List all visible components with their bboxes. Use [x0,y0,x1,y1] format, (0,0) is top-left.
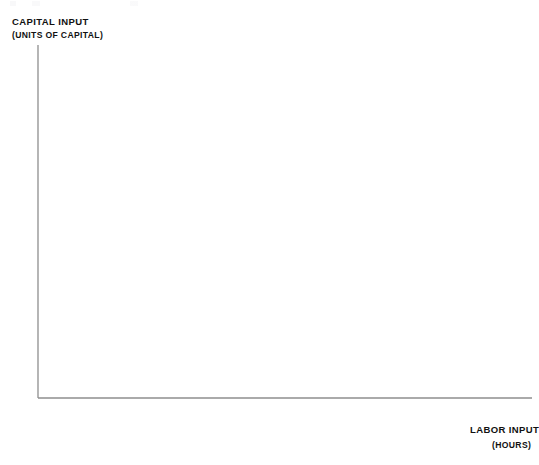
y-axis-title: Capital input [12,16,89,27]
x-axis-subtitle: (hours) [492,440,531,450]
y-axis-subtitle: (units of capital) [12,30,103,40]
axes-layer [38,45,532,398]
isoquant-chart: Capital input (units of capital) Labor i… [0,0,539,465]
plot-area [0,0,539,465]
x-axis-title: Labor input [470,424,539,435]
